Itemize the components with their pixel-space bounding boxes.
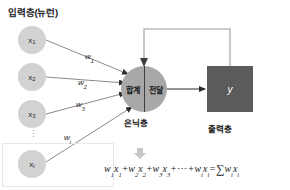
formula-term2-x: x [138, 163, 142, 174]
weight-wi-base: w [64, 133, 70, 142]
output-node-value: y [228, 84, 233, 95]
formula-term2-w-sub: 2 [135, 171, 138, 178]
input-layer-title: 입력층(뉴런) [8, 8, 58, 18]
formula-plus-2: + [146, 163, 153, 174]
weight-w2-base: w [78, 78, 84, 87]
hidden-node-transfer-text: 전달 [144, 66, 167, 112]
formula-term3-x-sub: 3 [167, 171, 170, 178]
input-neuron-x3[interactable]: x3 [18, 100, 46, 128]
input-neuron-x1-sub: 1 [32, 39, 35, 45]
weight-w3-sub: 3 [82, 106, 85, 112]
formula-term3-w-sub: 3 [159, 171, 162, 178]
weight-wi-sub: i [70, 139, 71, 145]
hidden-layer-label: 은닉층 [124, 119, 148, 128]
input-neuron-xi-sub: i [33, 163, 34, 169]
neural-network-diagram: 입력층(뉴런) x1 x2 x3 xi ⋮ w1 w2 w3 wi 합계 전달 … [0, 0, 290, 190]
input-neuron-x1[interactable]: x1 [18, 26, 46, 54]
formula-sum-x-sub: i [237, 171, 239, 178]
output-layer-node[interactable]: y [207, 66, 253, 112]
formula-equals: = [209, 163, 216, 174]
formula-term1-w: w [104, 163, 111, 174]
hidden-node-divider [144, 66, 145, 112]
formula-ellipsis: ⋯ [177, 163, 188, 174]
weight-w1-base: w [85, 52, 91, 61]
weight-label-w1: w1 [85, 52, 94, 63]
hidden-node-sum-text: 합계 [121, 66, 144, 112]
formula-down-arrow-icon [134, 148, 146, 159]
weight-label-w3: w3 [76, 100, 85, 111]
input-neurons-ellipsis: ⋮ [29, 133, 35, 136]
input-neuron-x2-sub: 2 [32, 76, 35, 82]
output-layer-label: 출력층 [208, 125, 232, 134]
formula-plus-3: + [170, 163, 177, 174]
formula-term2-x-sub: 2 [143, 171, 146, 178]
input-neuron-x2[interactable]: x2 [18, 63, 46, 91]
input-neuron-xi[interactable]: xi [18, 150, 46, 178]
formula-term2-w: w [128, 163, 135, 174]
weight-label-w2: w2 [78, 78, 87, 89]
feedback-loop-path [144, 29, 230, 66]
weight-w3-base: w [76, 100, 82, 109]
weight-label-wi: wi [64, 133, 71, 144]
weight-w2-sub: 2 [84, 84, 87, 90]
hidden-layer-node[interactable]: 합계 전달 [121, 66, 167, 112]
formula-termi-x-sub: i [207, 171, 209, 178]
input-neuron-x3-sub: 3 [32, 113, 35, 119]
formula-term1-x-sub: 1 [118, 171, 121, 178]
formula-sigma-icon: ∑ [216, 162, 225, 176]
weight-w1-sub: 1 [91, 58, 94, 64]
formula-termi-w-sub: i [201, 171, 203, 178]
formula-sum-w-sub: i [231, 171, 233, 178]
formula-term1-w-sub: 1 [111, 171, 114, 178]
edge-x3-to-hidden [46, 93, 125, 114]
weighted-sum-formula: w1x1+w2x2+w3x3+⋯+wixi=∑wixi [104, 161, 239, 176]
